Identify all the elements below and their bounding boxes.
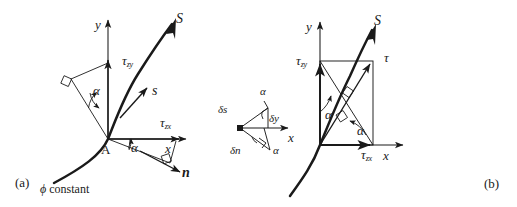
panel-b-curve-label-S: S (374, 14, 381, 28)
panel-a-x-axis-label: x (165, 142, 171, 155)
panel-a-linework (54, 18, 186, 183)
tau-subscript: zy (301, 60, 307, 69)
panel-b-caption: (b) (484, 177, 499, 190)
tau-subscript: zx (165, 122, 171, 131)
panel-a-alpha-lower-label: α (131, 141, 138, 154)
constant-text: constant (46, 182, 89, 196)
inset-alpha-top-label: α (260, 86, 266, 97)
panel-a-tau-zx-label: τzx (160, 116, 171, 131)
panel-a-curve-label-S: S (176, 12, 183, 26)
panel-b-tau-zy-label: τzy (296, 54, 307, 69)
panel-b-alpha-left-label: α (325, 108, 332, 121)
panel-a-tau-zy-label: τzy (122, 54, 133, 69)
diagram-linework (0, 0, 517, 207)
figure-container: y x S s n A τzy τzx α α ϕconstant (a) α … (0, 0, 517, 207)
panel-a-origin-label-A: A (101, 143, 110, 156)
tau-subscript: zx (366, 154, 372, 163)
panel-a-tangent-label-s: s (152, 84, 157, 98)
panel-b-resultant-tau-label: τ (384, 51, 389, 64)
panel-a-caption: (a) (15, 176, 29, 189)
inset-x-axis-label: x (288, 131, 294, 144)
tau-subscript: zy (127, 60, 133, 69)
panel-b-tau-zx-label: τzx (361, 148, 372, 163)
inset-delta-y-label: δy (269, 113, 279, 124)
inset-delta-n-label: δn (230, 145, 241, 156)
inset-linework (237, 101, 288, 150)
panel-a-y-axis-label: y (95, 18, 101, 31)
panel-a-normal-label-n: n (182, 166, 190, 180)
panel-b-y-axis-label: y (306, 20, 312, 33)
panel-b-linework (290, 22, 403, 196)
panel-b-x-axis-label: x (383, 149, 389, 162)
panel-b-alpha-bottom-label: α (357, 124, 364, 137)
panel-a-phi-constant-label: ϕconstant (40, 183, 89, 195)
inset-alpha-bottom-label: α (273, 145, 279, 156)
inset-delta-s-label: δs (218, 104, 227, 115)
panel-a-alpha-upper-label: α (93, 84, 100, 97)
